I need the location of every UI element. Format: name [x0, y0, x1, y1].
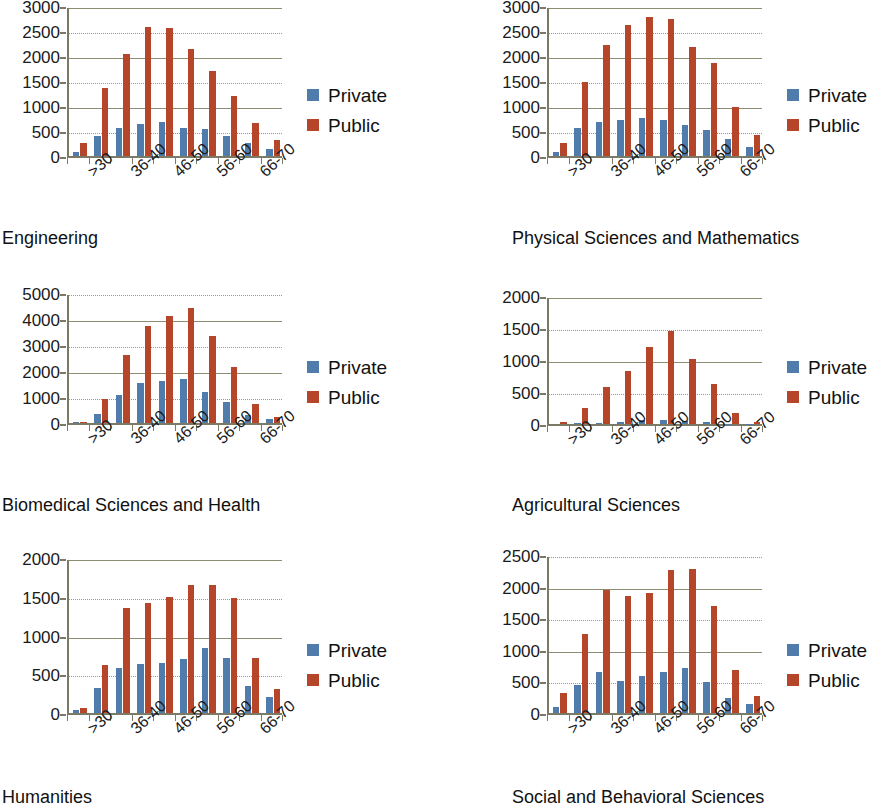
bar-public [646, 593, 652, 713]
chart-panel-6: 05001000150020002500>3036-4046-5056-6066… [0, 0, 883, 810]
bar-public [711, 606, 717, 713]
legend-item-private[interactable]: Private [787, 635, 867, 665]
bar-private [703, 682, 709, 713]
x-tick-mark [547, 715, 548, 721]
legend-label: Private [808, 641, 867, 660]
y-tick-mark [540, 588, 546, 590]
bar-public [625, 596, 631, 713]
figure-panel-grid: 050010001500200025003000>3036-4046-5056-… [0, 0, 883, 810]
y-axis-tick-label: 0 [0, 706, 540, 723]
bar-public [603, 590, 609, 713]
chart-caption: Social and Behavioral Sciences [512, 787, 764, 807]
legend-item-public[interactable]: Public [787, 665, 867, 695]
y-tick-mark [540, 682, 546, 684]
bar-private [596, 672, 602, 713]
y-axis-tick-label: 1500 [0, 611, 540, 628]
bar-private [660, 672, 666, 713]
chart-legend: PrivatePublic [787, 635, 867, 695]
y-tick-mark [540, 556, 546, 558]
y-axis-tick-label: 1000 [0, 643, 540, 660]
bar-public [668, 570, 674, 713]
y-axis-tick-label: 2500 [0, 548, 540, 565]
bar-public [689, 569, 695, 713]
legend-label: Public [808, 671, 860, 690]
y-tick-mark [540, 619, 546, 621]
private-color-swatch-icon [787, 644, 799, 656]
public-color-swatch-icon [787, 674, 799, 686]
y-tick-mark [540, 714, 546, 716]
y-axis-tick-label: 2000 [0, 580, 540, 597]
bar-public [582, 634, 588, 713]
y-tick-mark [540, 651, 546, 653]
y-axis-tick-label: 500 [0, 674, 540, 691]
bars-layer [549, 557, 762, 713]
bar-private [617, 681, 623, 713]
bar-private [553, 707, 559, 713]
plot-area [547, 557, 762, 715]
bar-public [560, 693, 566, 713]
